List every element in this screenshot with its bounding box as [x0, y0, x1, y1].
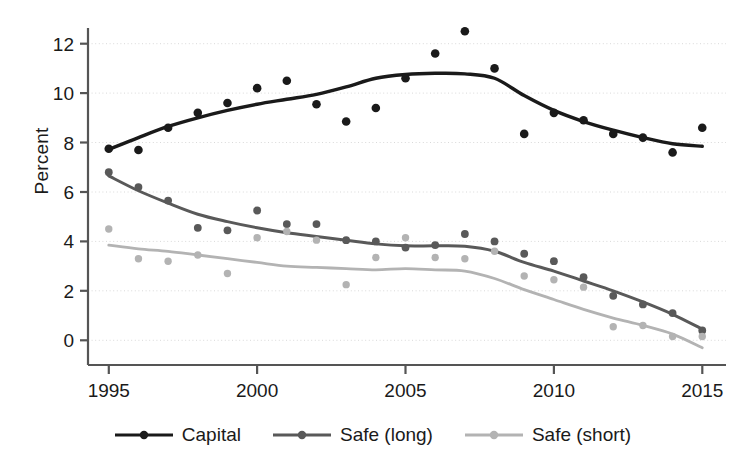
data-point [312, 100, 321, 109]
y-tick-label: 10 [53, 83, 74, 104]
legend-swatch-capital [113, 426, 175, 444]
data-point [283, 76, 292, 85]
data-point [431, 49, 440, 58]
data-point [194, 251, 201, 258]
legend-label-capital: Capital [182, 424, 241, 446]
data-point [669, 333, 676, 340]
data-point [135, 183, 143, 191]
data-point [164, 197, 172, 205]
data-point [224, 270, 231, 277]
legend-item-capital[interactable]: Capital [113, 424, 241, 446]
data-point [134, 146, 143, 155]
data-point [372, 254, 379, 261]
data-point [342, 236, 350, 244]
plot-area: 02468101219952000200520102015 [0, 0, 744, 470]
data-point [698, 123, 707, 132]
data-point [105, 168, 113, 176]
data-point [253, 84, 262, 93]
data-point [431, 254, 438, 261]
data-point [194, 224, 202, 232]
data-point [550, 276, 557, 283]
chart-figure: Percent 02468101219952000200520102015 Ca… [0, 0, 744, 470]
legend-swatch-safe-short [463, 426, 525, 444]
data-point [253, 207, 261, 215]
data-point [490, 64, 499, 73]
legend-swatch-safe-long [271, 426, 333, 444]
data-point [194, 109, 203, 118]
data-point [461, 230, 469, 238]
data-point [372, 238, 380, 246]
legend-item-safe-short[interactable]: Safe (short) [463, 424, 631, 446]
data-point [135, 255, 142, 262]
data-point [579, 116, 588, 125]
data-point [669, 309, 677, 317]
data-point [342, 117, 351, 126]
y-tick-label: 8 [63, 133, 74, 154]
data-point [668, 148, 677, 157]
data-point [104, 144, 113, 153]
data-point [164, 257, 171, 264]
data-point [313, 220, 321, 228]
data-point [699, 333, 706, 340]
data-point [639, 322, 646, 329]
data-point [461, 255, 468, 262]
data-point [253, 234, 260, 241]
x-tick-label: 2010 [533, 380, 575, 401]
data-point [521, 272, 528, 279]
data-point [372, 104, 381, 113]
data-point [431, 241, 439, 249]
data-point [520, 130, 529, 139]
series-capital [104, 27, 706, 157]
x-tick-label: 2000 [236, 380, 278, 401]
data-point [580, 273, 588, 281]
data-point [105, 225, 112, 232]
y-tick-label: 4 [63, 231, 74, 252]
data-point [283, 228, 290, 235]
legend-item-safe-long[interactable]: Safe (long) [271, 424, 433, 446]
data-point [223, 99, 232, 108]
data-point [401, 74, 410, 83]
data-point [491, 238, 499, 246]
data-point [313, 236, 320, 243]
data-point [402, 244, 410, 252]
data-point [402, 234, 409, 241]
data-point [550, 109, 559, 118]
data-point [609, 292, 617, 300]
data-point [639, 133, 648, 142]
data-point [520, 250, 528, 258]
x-tick-label: 1995 [88, 380, 130, 401]
data-point [580, 283, 587, 290]
data-point [609, 130, 618, 139]
data-point [610, 323, 617, 330]
legend-label-safe-short: Safe (short) [532, 424, 631, 446]
data-point [550, 257, 558, 265]
x-tick-label: 2005 [384, 380, 426, 401]
data-point [342, 281, 349, 288]
data-point [461, 27, 470, 36]
y-tick-label: 6 [63, 182, 74, 203]
data-point [639, 301, 647, 309]
legend-label-safe-long: Safe (long) [340, 424, 433, 446]
y-tick-label: 2 [63, 281, 74, 302]
data-point [164, 123, 173, 132]
y-tick-label: 12 [53, 34, 74, 55]
data-point [224, 226, 232, 234]
y-tick-label: 0 [63, 330, 74, 351]
chart-legend: Capital Safe (long) Safe (short) [0, 418, 744, 452]
series-safe-long [105, 168, 706, 334]
x-tick-label: 2015 [681, 380, 723, 401]
data-point [283, 220, 291, 228]
data-point [491, 248, 498, 255]
